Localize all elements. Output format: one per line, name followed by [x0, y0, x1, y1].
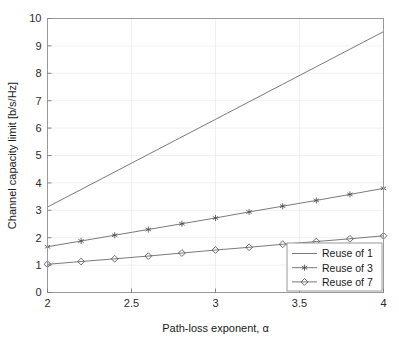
x-tick-label: 2 — [44, 297, 50, 309]
y-tick-label: 0 — [35, 286, 41, 298]
legend-label: Reuse of 3 — [322, 262, 373, 274]
x-tick-label: 4 — [380, 297, 386, 309]
legend-label: Reuse of 1 — [322, 247, 373, 259]
chart-figure: 01234567891022.533.54Path-loss exponent,… — [0, 0, 399, 340]
chart-legend[interactable]: Reuse of 1Reuse of 3Reuse of 7 — [287, 243, 382, 291]
y-tick-label: 6 — [35, 122, 41, 134]
chart-canvas: 01234567891022.533.54Path-loss exponent,… — [0, 0, 399, 340]
x-tick-label: 3.5 — [292, 297, 307, 309]
y-axis-title: Channel capacity limit [b/s/Hz] — [6, 82, 18, 229]
y-tick-label: 3 — [35, 204, 41, 216]
x-tick-label: 3 — [212, 297, 218, 309]
y-tick-label: 9 — [35, 40, 41, 52]
y-tick-label: 5 — [35, 149, 41, 161]
x-axis-title: Path-loss exponent, α — [162, 322, 269, 334]
y-tick-label: 7 — [35, 95, 41, 107]
y-tick-label: 4 — [35, 177, 41, 189]
legend-label: Reuse of 7 — [322, 276, 373, 288]
y-tick-label: 1 — [35, 259, 41, 271]
y-tick-label: 2 — [35, 232, 41, 244]
y-tick-label: 10 — [29, 12, 41, 24]
x-tick-label: 2.5 — [124, 297, 139, 309]
y-tick-label: 8 — [35, 67, 41, 79]
